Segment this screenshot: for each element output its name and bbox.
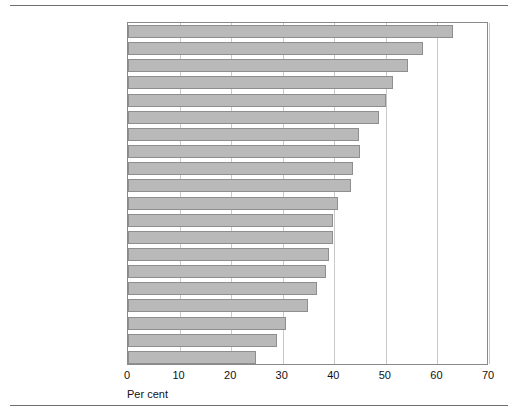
bar-row: Poland	[128, 280, 489, 297]
bar-row: Chile	[128, 57, 489, 74]
bar-row: Canada	[128, 40, 489, 57]
bar[interactable]	[128, 197, 338, 210]
x-tick-label-40: 40	[313, 369, 353, 381]
bar-row: Australia	[128, 109, 489, 126]
bar[interactable]	[128, 282, 317, 295]
bar[interactable]	[128, 265, 326, 278]
bar-row: Belgium (Flanders)	[128, 160, 489, 177]
figure: PortugalCanadaChileSloveniaUnited States…	[0, 0, 517, 411]
bar[interactable]	[128, 25, 453, 38]
bar-row: Ireland	[128, 143, 489, 160]
bar-row: United States	[128, 92, 489, 109]
bar[interactable]	[128, 317, 286, 330]
bar-row: Czech Republic	[128, 332, 489, 349]
bar-row: New Zealand	[128, 263, 489, 280]
bar-row: Portugal	[128, 23, 489, 40]
x-tick-label-10: 10	[159, 369, 199, 381]
bar[interactable]	[128, 145, 360, 158]
x-tick-label-50: 50	[365, 369, 405, 381]
bar-row: Slovenia	[128, 74, 489, 91]
bar-row: Netherlands	[128, 229, 489, 246]
x-axis-title: Per cent	[127, 388, 168, 400]
bar-row: Hungary	[128, 297, 489, 314]
top-divider-rule	[10, 5, 508, 6]
bar[interactable]	[128, 214, 333, 227]
x-tick-label-20: 20	[210, 369, 250, 381]
plot-area: PortugalCanadaChileSloveniaUnited States…	[127, 22, 488, 365]
bar-row: Norway	[128, 246, 489, 263]
bottom-divider-rule	[10, 405, 508, 406]
bar[interactable]	[128, 179, 351, 192]
bar[interactable]	[128, 42, 423, 55]
bars-group: PortugalCanadaChileSloveniaUnited States…	[128, 23, 487, 364]
bar[interactable]	[128, 128, 359, 141]
bar[interactable]	[128, 59, 408, 72]
x-tick-label-70: 70	[468, 369, 508, 381]
gridline-70	[489, 23, 490, 364]
bar-row: Finland	[128, 126, 489, 143]
x-tick-label-30: 30	[262, 369, 302, 381]
bar-row: Germany	[128, 349, 489, 366]
bar[interactable]	[128, 299, 308, 312]
bar[interactable]	[128, 111, 379, 124]
bar[interactable]	[128, 76, 393, 89]
x-tick-label-0: 0	[107, 369, 147, 381]
bar-row: Denmark	[128, 212, 489, 229]
bar-row: Switzerland	[128, 195, 489, 212]
bar[interactable]	[128, 231, 333, 244]
bar-row: United Kingdom	[128, 177, 489, 194]
bar[interactable]	[128, 334, 277, 347]
bar[interactable]	[128, 94, 386, 107]
bar[interactable]	[128, 351, 256, 364]
x-tick-label-60: 60	[416, 369, 456, 381]
bar-row: Sweden	[128, 315, 489, 332]
bar[interactable]	[128, 162, 353, 175]
bar[interactable]	[128, 248, 329, 261]
